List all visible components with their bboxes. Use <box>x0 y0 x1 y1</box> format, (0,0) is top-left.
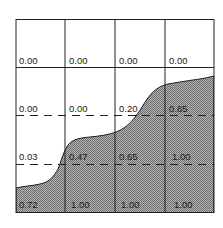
cell-value: 1.00 <box>174 199 193 210</box>
cell-value: 0.00 <box>69 55 88 66</box>
cell-value: 0.47 <box>69 151 88 162</box>
cell-value: 0.00 <box>69 103 88 114</box>
cell-value: 0.72 <box>19 199 38 210</box>
cell-value: 1.00 <box>121 199 140 210</box>
cell-value: 0.00 <box>119 55 138 66</box>
cell-value: 1.00 <box>71 199 90 210</box>
cell-value: 0.00 <box>169 55 188 66</box>
cell-value: 1.00 <box>172 151 191 162</box>
cell-value: 0.00 <box>19 103 38 114</box>
cell-value: 0.65 <box>119 151 138 162</box>
cell-value: 0.85 <box>169 103 188 114</box>
volume-fraction-diagram: 0.00 0.00 0.00 0.00 0.00 0.00 0.20 0.85 … <box>0 0 223 228</box>
cell-value: 0.03 <box>19 151 38 162</box>
cell-value: 0.20 <box>119 103 138 114</box>
cell-value: 0.00 <box>19 55 38 66</box>
